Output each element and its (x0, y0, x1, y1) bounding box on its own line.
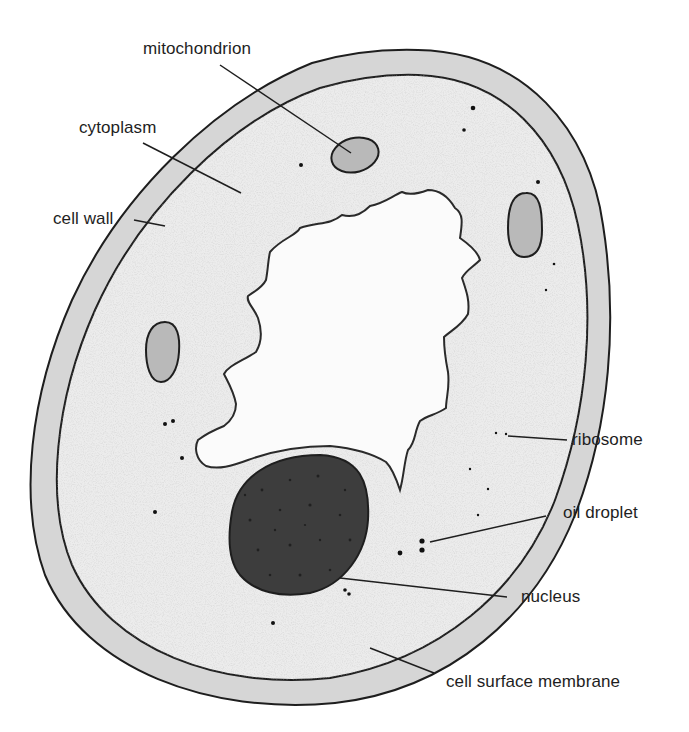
label-cell-surface-membrane: cell surface membrane (446, 673, 620, 690)
mitochondrion-left (146, 322, 179, 382)
label-cell-wall: cell wall (53, 210, 113, 227)
label-oil-droplet: oil droplet (563, 504, 638, 521)
label-ribosome: ribosome (572, 431, 643, 448)
label-cytoplasm: cytoplasm (79, 119, 156, 136)
mitochondrion-right (508, 193, 542, 257)
label-mitochondrion: mitochondrion (143, 40, 251, 57)
label-nucleus: nucleus (521, 588, 580, 605)
cell-diagram (0, 0, 689, 732)
